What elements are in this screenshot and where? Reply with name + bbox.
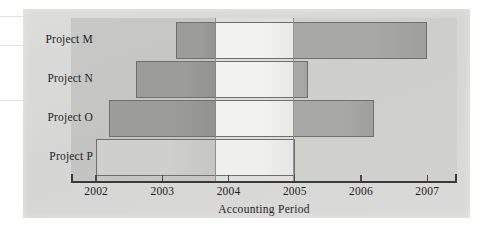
figure-canvas: 200220032004200520062007Project MProject… [0,0,490,227]
bar-segment [216,140,294,175]
x-axis-tick-label: 2005 [265,185,325,197]
x-axis-line [71,181,457,183]
band-separator-line [293,18,294,181]
x-axis-title: Accounting Period [71,203,457,215]
x-axis-tick [427,175,428,181]
gantt-bar[interactable] [176,22,428,59]
bar-segment [294,23,427,58]
x-axis-right-cap [455,174,457,182]
x-axis-tick-label: 2003 [132,185,192,197]
category-label-project-n: Project N [23,72,93,84]
bar-segment [216,101,294,136]
plot-area: 200220032004200520062007Project MProject… [23,9,470,218]
x-axis-tick-label: 2007 [397,185,457,197]
x-axis-left-cap [71,174,73,182]
gantt-bar[interactable] [109,100,374,137]
x-axis-tick-label: 2002 [66,185,126,197]
x-axis-tick [162,175,163,181]
bar-segment [177,23,217,58]
bar-segment [294,62,308,97]
page-rule-line [0,45,23,46]
bar-segment [110,101,216,136]
x-axis-tick [228,175,229,181]
category-label-project-m: Project M [23,33,93,45]
gantt-bar[interactable] [96,139,295,176]
x-axis-tick [360,175,361,181]
page-rule-line [0,16,23,17]
bar-segment [97,140,216,175]
bar-segment [216,23,294,58]
bar-segment [216,62,294,97]
gantt-bar[interactable] [136,61,308,98]
chart-panel: 200220032004200520062007Project MProject… [23,9,470,218]
x-axis-tick [95,175,96,181]
category-label-project-o: Project O [23,111,93,123]
bar-segment [294,101,374,136]
x-axis-tick-label: 2004 [199,185,259,197]
x-axis-tick [294,175,295,181]
category-label-project-p: Project P [23,150,93,162]
bar-segment [137,62,216,97]
page-rule-line [0,100,23,101]
band-separator-line [215,18,216,181]
x-axis-tick-label: 2006 [331,185,391,197]
